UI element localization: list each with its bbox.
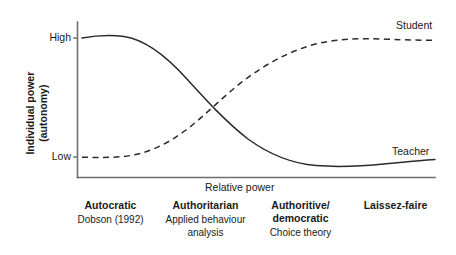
student-curve: [82, 39, 435, 158]
y-axis-title-line1: Individual power: [24, 43, 37, 183]
category-laissez-faire: Laissez-faire: [348, 199, 443, 213]
category-authoritive-democratic: Authoritive/ democratic Choice theory: [253, 199, 348, 239]
category-authoritarian-subtitle: Applied behaviour analysis: [159, 213, 252, 239]
series-label-teacher: Teacher: [392, 145, 429, 157]
y-tick-label-low: Low: [33, 150, 71, 162]
category-authoritive-democratic-subtitle: Choice theory: [254, 226, 347, 239]
category-authoritarian: Authoritarian Applied behaviour analysis: [158, 199, 253, 239]
chart-figure: Individual power (autonomy) High Low Rel…: [0, 0, 456, 255]
category-autocratic-subtitle: Dobson (1992): [64, 213, 157, 226]
category-autocratic-title: Autocratic: [64, 199, 157, 212]
x-axis-title: Relative power: [205, 181, 274, 193]
teacher-curve: [82, 35, 435, 166]
category-laissez-faire-title: Laissez-faire: [349, 199, 442, 212]
y-axis-title-line2: (autonomy): [37, 43, 50, 183]
category-authoritive-democratic-title-line2: democratic: [254, 212, 347, 225]
category-authoritarian-title: Authoritarian: [159, 199, 252, 212]
series-label-student: Student: [396, 19, 432, 31]
y-tick-label-high: High: [33, 31, 71, 43]
category-autocratic: Autocratic Dobson (1992): [63, 199, 158, 226]
y-axis-title: Individual power (autonomy): [24, 43, 50, 183]
category-authoritive-democratic-title-line1: Authoritive/: [254, 199, 347, 212]
category-band: Autocratic Dobson (1992) Authoritarian A…: [63, 199, 443, 239]
